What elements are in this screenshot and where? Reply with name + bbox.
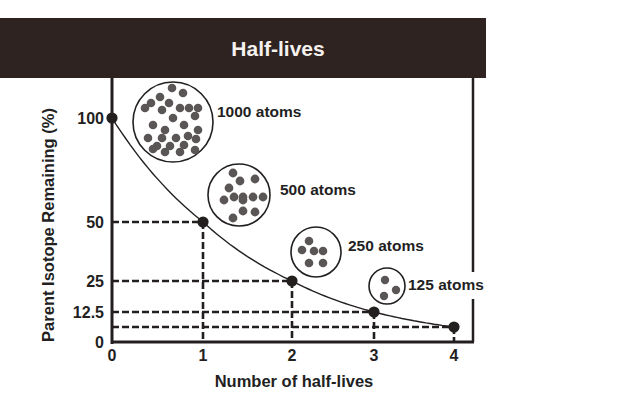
atom-dot (225, 184, 234, 193)
atom-dot (180, 121, 189, 130)
x-ticks: 01234 (108, 347, 459, 364)
atom-bubble: 125 atoms (369, 268, 484, 304)
y-ticks: 012.52550100 (73, 110, 104, 351)
atom-dot (319, 259, 328, 268)
atom-bubbles: 1000 atoms500 atoms250 atoms125 atoms (133, 82, 484, 304)
atom-dot (161, 148, 170, 157)
atom-dot (239, 196, 248, 205)
atom-dot (158, 134, 167, 143)
x-axis-label: Number of half-lives (215, 372, 374, 390)
y-tick-label: 50 (86, 214, 104, 231)
atom-dot (194, 126, 203, 135)
atom-dot (259, 193, 268, 202)
atom-dot (319, 247, 328, 256)
atom-dot (380, 292, 388, 300)
atom-bubble: 1000 atoms (133, 82, 301, 162)
atom-count-label: 125 atoms (408, 276, 484, 293)
y-tick-label: 100 (77, 110, 104, 127)
atom-dot (156, 93, 165, 102)
atom-dot (165, 99, 174, 108)
atom-dot (305, 259, 314, 268)
atom-dot (305, 237, 314, 246)
atom-dot (172, 134, 181, 143)
data-point (197, 216, 208, 227)
atom-dot (184, 132, 193, 141)
atom-dot (239, 207, 248, 216)
atom-dot (168, 84, 177, 93)
atom-dot (220, 196, 229, 205)
x-tick-label: 1 (199, 347, 208, 364)
atom-dot (229, 214, 238, 223)
atom-bubble: 250 atoms (291, 227, 424, 277)
atom-dot (191, 112, 200, 121)
chart-title: Half-lives (231, 37, 324, 60)
atom-dot (149, 121, 158, 130)
atom-dot (144, 134, 153, 143)
atom-dot (392, 286, 400, 294)
x-tick-label: 4 (450, 347, 459, 364)
data-point (106, 112, 117, 123)
atom-dot (192, 135, 201, 144)
atom-dot (176, 104, 185, 113)
data-point (368, 306, 379, 317)
atom-dot (251, 208, 260, 217)
atom-dot (229, 169, 238, 178)
atom-count-label: 500 atoms (280, 181, 356, 198)
y-axis-label: Parent Isotope Remaining (%) (39, 108, 57, 342)
atom-bubble: 500 atoms (208, 164, 356, 226)
atom-dot (230, 193, 239, 202)
data-point (448, 321, 459, 332)
y-tick-label: 0 (95, 334, 104, 351)
atom-count-label: 250 atoms (348, 237, 424, 254)
half-life-chart: Half-lives 1000 atoms500 atoms250 atoms1… (0, 0, 623, 405)
atom-dot (310, 247, 319, 256)
atom-dot (161, 126, 170, 135)
atom-dot (194, 104, 203, 113)
atom-dot (251, 175, 260, 184)
atom-dot (185, 104, 194, 113)
data-point (286, 275, 297, 286)
atom-dot (381, 276, 389, 284)
x-tick-label: 2 (288, 347, 297, 364)
atom-dot (249, 193, 258, 202)
atom-dot (236, 177, 245, 186)
y-tick-label: 12.5 (73, 304, 104, 321)
atom-dot (191, 146, 200, 155)
atom-dot (298, 246, 307, 255)
x-tick-label: 0 (108, 347, 117, 364)
x-tick-label: 3 (370, 347, 379, 364)
atom-dot (179, 89, 188, 98)
atom-dot (149, 145, 158, 154)
atom-dot (176, 148, 185, 157)
atom-count-label: 1000 atoms (217, 103, 301, 120)
y-tick-label: 25 (86, 273, 104, 290)
atom-dot (169, 114, 178, 123)
atom-dot (141, 104, 150, 113)
atom-dot (158, 106, 167, 115)
